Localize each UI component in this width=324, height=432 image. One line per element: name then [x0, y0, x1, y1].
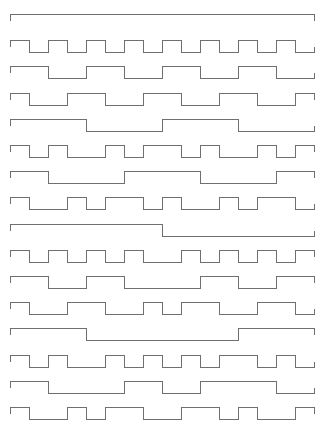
waveform-row-15	[11, 408, 315, 420]
waveform-row-10	[11, 277, 315, 289]
waveform-row-1	[11, 41, 315, 53]
waveform-row-8	[11, 225, 315, 237]
waveform-row-3	[11, 94, 315, 106]
waveform-diagram	[0, 0, 324, 432]
waveform-row-13	[11, 356, 315, 368]
waveform-row-11	[11, 303, 315, 315]
waveform-row-12	[11, 329, 315, 341]
waveform-row-4	[11, 120, 315, 132]
waveform-row-0	[11, 15, 315, 21]
walsh-waveforms-canvas	[0, 0, 324, 432]
waveform-row-6	[11, 172, 315, 184]
waveform-row-9	[11, 251, 315, 263]
waveform-row-2	[11, 67, 315, 79]
waveform-row-7	[11, 198, 315, 210]
waveform-row-5	[11, 146, 315, 158]
waveform-row-14	[11, 382, 315, 394]
